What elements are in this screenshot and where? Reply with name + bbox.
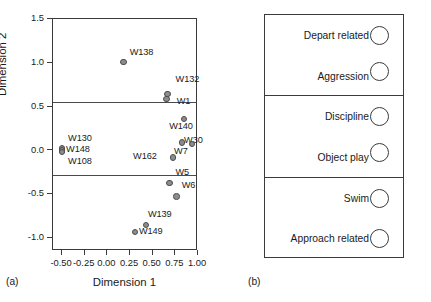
point-label: W149 — [139, 228, 163, 237]
point-label: W138 — [130, 48, 154, 57]
diagram-item-label: Aggression — [317, 71, 369, 82]
panel-b-diagram: Depart relatedAggressionDisciplineObject… — [220, 0, 431, 302]
data-point — [120, 59, 127, 66]
data-point — [170, 154, 177, 161]
y-tick — [47, 237, 52, 238]
y-tick-label: 1.5 — [16, 13, 44, 22]
data-point — [173, 193, 180, 200]
y-axis-label: Dimension 2 — [0, 0, 8, 96]
x-tick — [106, 250, 107, 255]
diagram-item-circle[interactable] — [370, 189, 389, 208]
diagram-item-label: Object play — [317, 152, 369, 163]
y-tick — [47, 149, 52, 150]
y-tick-label: 0.0 — [16, 145, 44, 154]
diagram-item[interactable]: Depart related — [265, 15, 403, 56]
diagram-item[interactable]: Object play — [265, 137, 403, 178]
point-label: W148 — [66, 146, 90, 155]
diagram-item-circle[interactable] — [370, 143, 389, 162]
plot-area: W138W132W1W140W30W7W162W130W148W108W5W6W… — [52, 18, 197, 250]
panel-a-scatterplot: Dimension 2 Dimension 1 (a) W138W132W1W1… — [0, 0, 220, 302]
x-tick — [84, 250, 85, 255]
diagram-box: Depart relatedAggressionDisciplineObject… — [264, 14, 404, 258]
x-tick — [129, 250, 130, 255]
y-tick — [47, 193, 52, 194]
x-tick-label: 1.00 — [180, 258, 214, 267]
y-tick — [47, 106, 52, 107]
diagram-item-circle[interactable] — [370, 62, 389, 81]
y-tick-label: -1.0 — [16, 232, 44, 241]
data-point — [59, 149, 66, 156]
x-tick — [61, 250, 62, 255]
point-label: W7 — [174, 147, 188, 156]
x-tick — [197, 250, 198, 255]
point-label: W140 — [169, 123, 193, 132]
y-tick-label: 1.0 — [16, 57, 44, 66]
point-label: W130 — [68, 134, 92, 143]
diagram-item-circle[interactable] — [370, 26, 389, 45]
point-label: W139 — [148, 211, 172, 220]
y-tick-label: 0.5 — [16, 101, 44, 110]
data-point — [166, 180, 173, 187]
y-tick — [47, 62, 52, 63]
diagram-item-label: Discipline — [325, 111, 369, 122]
diagram-item[interactable]: Aggression — [265, 56, 403, 97]
figure-root: Dimension 2 Dimension 1 (a) W138W132W1W1… — [0, 0, 431, 302]
panel-a-caption: (a) — [6, 276, 18, 287]
point-label: W5 — [176, 169, 190, 178]
data-point — [189, 141, 196, 148]
x-tick — [174, 250, 175, 255]
point-label: W132 — [176, 75, 200, 84]
point-label: W162 — [133, 153, 157, 162]
diagram-item-circle[interactable] — [370, 229, 389, 248]
point-label: W1 — [177, 97, 191, 106]
y-tick-label: -0.5 — [16, 188, 44, 197]
y-tick — [47, 18, 52, 19]
x-tick — [152, 250, 153, 255]
point-label: W108 — [68, 157, 92, 166]
diagram-group-2: DisciplineObject play — [265, 96, 403, 177]
diagram-group-3: SwimApproach related — [265, 178, 403, 259]
reference-line-1 — [53, 102, 196, 103]
data-point — [132, 229, 139, 236]
diagram-item-label: Depart related — [304, 30, 369, 41]
diagram-item[interactable]: Approach related — [265, 218, 403, 259]
point-label: W6 — [182, 182, 196, 191]
diagram-item-label: Approach related — [291, 233, 369, 244]
diagram-item-label: Swim — [344, 193, 369, 204]
diagram-item-circle[interactable] — [370, 107, 389, 126]
diagram-item[interactable]: Swim — [265, 178, 403, 219]
x-axis-label: Dimension 1 — [52, 276, 197, 288]
panel-b-caption: (b) — [248, 276, 260, 287]
diagram-group-1: Depart relatedAggression — [265, 15, 403, 96]
diagram-item[interactable]: Discipline — [265, 96, 403, 137]
